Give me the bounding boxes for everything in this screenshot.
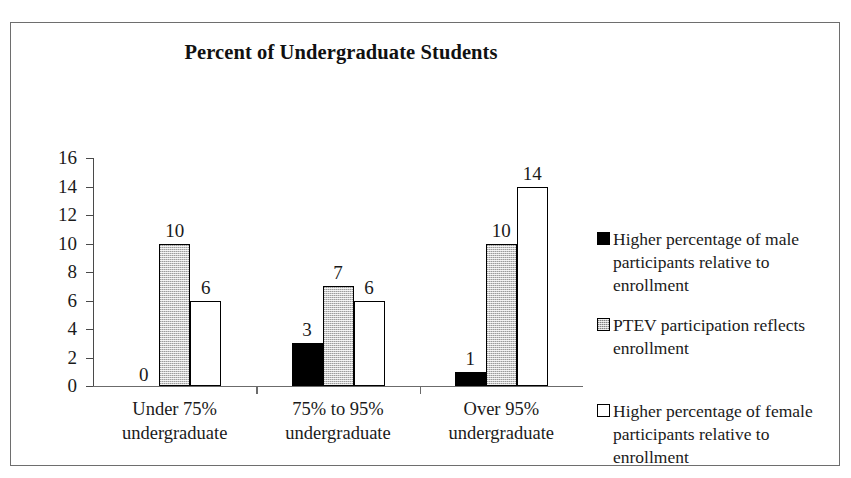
bar-value-label: 10 [492,221,511,240]
y-axis-tick: 2 [86,358,93,359]
y-axis-tick-label: 14 [58,177,77,196]
bar-value-label: 7 [333,263,343,282]
category-label-2: 75% to 95%undergraduate [256,398,419,445]
y-axis-tick-label: 12 [58,205,77,224]
y-axis-tick: 0 [86,386,93,387]
legend-swatch-black [597,232,610,245]
chart-title: Percent of Undergraduate Students [41,41,641,64]
category-label-line: undergraduate [420,422,583,446]
bar-gray-3: 10 [486,244,517,387]
legend-label-line: participants relative to [613,423,813,446]
chart-page: Percent of Undergraduate Students 024681… [0,0,851,478]
legend-item-2[interactable]: PTEV participation reflectsenrollment [597,314,847,360]
y-axis-tick: 12 [86,215,93,216]
bar-black-3: 1 [455,372,486,386]
bar-value-label: 10 [165,221,184,240]
y-axis-tick: 16 [86,158,93,159]
chart-title-wrapper: Percent of Undergraduate Students [41,41,641,64]
y-axis-tick: 8 [86,272,93,273]
category-label-line: undergraduate [93,422,256,446]
bar-value-label: 3 [302,320,312,339]
y-axis-tick: 14 [86,187,93,188]
bar-value-label: 1 [466,349,476,368]
bar-white-3: 14 [517,187,548,387]
category-label-line: undergraduate [256,422,419,446]
category-label-line: Under 75% [93,398,256,422]
bar-white-2: 6 [354,301,385,387]
bar-gray-2: 7 [323,286,354,386]
y-axis-tick: 6 [86,301,93,302]
legend-item-3[interactable]: Higher percentage of femaleparticipants … [597,400,847,469]
legend-item-1[interactable]: Higher percentage of maleparticipants re… [597,228,847,297]
category-label-line: Over 95% [420,398,583,422]
x-axis-category-labels: Under 75%undergraduate75% to 95%undergra… [93,398,583,458]
scan-margin [0,0,851,10]
y-axis-tick-label: 4 [68,319,78,338]
y-axis-tick-label: 8 [68,262,78,281]
category-label-3: Over 95%undergraduate [420,398,583,445]
category-label-line: 75% to 95% [256,398,419,422]
legend-label-line: enrollment [613,274,799,297]
plot-area: 0246810121416 010637611014 [93,158,583,386]
bar-gray-1: 10 [159,244,190,387]
legend-label: Higher percentage of maleparticipants re… [613,228,799,297]
y-axis-tick-label: 0 [68,376,78,395]
bar-value-label: 6 [201,278,211,297]
legend-label-line: PTEV participation reflects [613,314,805,337]
legend-label: PTEV participation reflectsenrollment [613,314,805,360]
y-axis-tick-label: 6 [68,291,78,310]
y-axis-tick: 10 [86,244,93,245]
legend-swatch-gray [597,318,610,331]
legend-label: Higher percentage of femaleparticipants … [613,400,813,469]
bar-value-label: 14 [523,164,542,183]
y-axis-tick: 4 [86,329,93,330]
y-axis-line [93,158,94,386]
legend-label-line: enrollment [613,337,805,360]
bar-value-label: 0 [139,365,149,384]
chart-frame: Percent of Undergraduate Students 024681… [10,22,840,466]
legend-label-line: Higher percentage of female [613,400,813,423]
y-axis-tick-label: 10 [58,234,77,253]
category-tick [256,386,257,394]
bar-white-1: 6 [190,301,221,387]
legend-label-line: Higher percentage of male [613,228,799,251]
legend-swatch-white [597,404,610,417]
category-label-1: Under 75%undergraduate [93,398,256,445]
y-axis-tick-label: 16 [58,148,77,167]
bar-black-2: 3 [292,343,323,386]
legend-label-line: participants relative to [613,251,799,274]
legend-label-line: enrollment [613,446,813,469]
bar-value-label: 6 [364,278,374,297]
y-axis-tick-label: 2 [68,348,78,367]
category-tick [420,386,421,394]
